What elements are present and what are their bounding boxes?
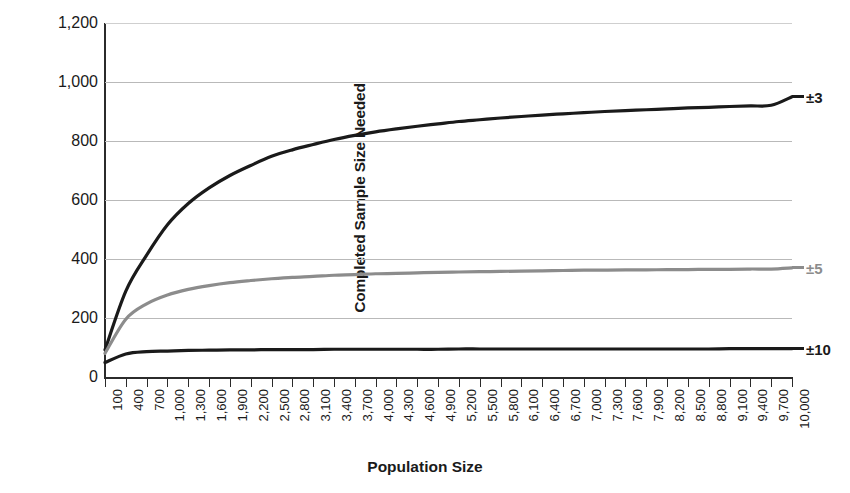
x-axis-tick: [396, 379, 397, 387]
chart-container: Completed Sample Size Needed 02004006008…: [0, 0, 850, 493]
x-axis-tick-label: 4,900: [443, 389, 458, 422]
x-axis-tick-label: 3,100: [318, 389, 333, 422]
y-axis-tick-label: 200: [71, 310, 98, 326]
x-axis-tick: [167, 379, 168, 387]
x-axis-tick: [105, 379, 106, 387]
x-axis-tick: [688, 379, 689, 387]
x-axis-tick: [542, 379, 543, 387]
y-axis-tick-label: 400: [71, 251, 98, 267]
x-axis-tick-label: 4,600: [422, 389, 437, 422]
x-axis-title: Population Size: [0, 458, 850, 476]
series-leader-line: [792, 266, 804, 269]
x-axis-tick-label: 2,200: [256, 389, 271, 422]
x-axis-tick-label: 8,500: [693, 389, 708, 422]
x-axis-tick-label: 7,600: [630, 389, 645, 422]
x-axis-tick: [188, 379, 189, 387]
x-axis-tick-label: 3,700: [360, 389, 375, 422]
x-axis-tick: [438, 379, 439, 387]
x-axis-tick: [147, 379, 148, 387]
x-axis-tick-label: 9,700: [776, 389, 791, 422]
x-axis-tick-label: 9,400: [755, 389, 770, 422]
x-axis-tick-label: 7,300: [610, 389, 625, 422]
x-axis-tick: [501, 379, 502, 387]
x-axis-tick: [750, 379, 751, 387]
x-axis-tick: [355, 379, 356, 387]
x-axis-tick-label: 6,100: [526, 389, 541, 422]
y-axis-tick-label: 0: [89, 369, 98, 385]
y-axis-tick-label: 1,200: [58, 15, 98, 31]
x-axis-tick: [292, 379, 293, 387]
series-line: [105, 97, 792, 350]
x-axis-tick: [563, 379, 564, 387]
x-axis-tick-labels: 1004007001,0001,3001,6001,9002,2002,5002…: [105, 389, 792, 459]
x-axis-tick-label: 1,000: [172, 389, 187, 422]
x-axis-tick-label: 5,800: [506, 389, 521, 422]
x-axis-tick: [209, 379, 210, 387]
series-label-2: ±5: [806, 259, 823, 276]
x-axis-tick-label: 4,300: [401, 389, 416, 422]
x-axis-tick-label: 6,700: [568, 389, 583, 422]
x-axis-tick-label: 1,300: [193, 389, 208, 422]
x-axis-tick-label: 1,600: [214, 389, 229, 422]
x-axis-tick: [667, 379, 668, 387]
x-axis-tick: [313, 379, 314, 387]
x-axis-tick: [126, 379, 127, 387]
x-axis-tick: [709, 379, 710, 387]
x-axis-tick: [792, 379, 793, 387]
x-axis-tick: [521, 379, 522, 387]
y-axis-tick-label: 1,000: [58, 74, 98, 90]
x-axis-tick-label: 1,900: [235, 389, 250, 422]
x-axis-tick: [272, 379, 273, 387]
x-axis-tick-label: 5,200: [464, 389, 479, 422]
x-axis-tick-label: 700: [152, 389, 167, 411]
x-axis-ticks: [105, 379, 792, 388]
x-axis-tick-label: 2,800: [297, 389, 312, 422]
series-leader-line: [792, 347, 804, 350]
x-axis-tick-label: 7,900: [651, 389, 666, 422]
x-axis-tick-label: 8,200: [672, 389, 687, 422]
x-axis-tick-label: 5,500: [485, 389, 500, 422]
x-axis-tick-label: 9,100: [735, 389, 750, 422]
x-axis-tick: [376, 379, 377, 387]
x-axis-tick: [730, 379, 731, 387]
x-axis-tick-label: 400: [131, 389, 146, 411]
x-axis-tick: [334, 379, 335, 387]
series-lines: [105, 23, 792, 377]
x-axis-tick: [251, 379, 252, 387]
x-axis-tick: [605, 379, 606, 387]
x-axis-tick-label: 4,000: [381, 389, 396, 422]
x-axis-tick-label: 7,000: [589, 389, 604, 422]
y-axis-tick-label: 600: [71, 192, 98, 208]
series-leader-line: [792, 95, 804, 98]
x-axis-tick-label: 100: [110, 389, 125, 411]
x-axis-tick: [480, 379, 481, 387]
x-axis-tick: [584, 379, 585, 387]
x-axis-tick: [646, 379, 647, 387]
x-axis-tick-label: 6,400: [547, 389, 562, 422]
x-axis-tick-label: 3,400: [339, 389, 354, 422]
series-line: [105, 349, 792, 363]
x-axis-tick: [459, 379, 460, 387]
x-axis-tick-label: 8,800: [714, 389, 729, 422]
y-axis-tick-labels: 02004006008001,0001,200: [36, 0, 98, 493]
plot-area: [105, 23, 792, 377]
x-axis-tick: [771, 379, 772, 387]
series-label-3: ±10: [806, 340, 831, 357]
x-axis-tick: [230, 379, 231, 387]
series-line: [105, 268, 792, 354]
x-axis-tick-label: 10,000: [797, 389, 812, 429]
x-axis-tick-label: 2,500: [277, 389, 292, 422]
x-axis-tick: [417, 379, 418, 387]
x-axis-tick: [625, 379, 626, 387]
y-axis-tick-label: 800: [71, 133, 98, 149]
series-label-1: ±3: [806, 88, 823, 105]
y-axis-title-wrapper: Completed Sample Size Needed: [0, 18, 36, 378]
